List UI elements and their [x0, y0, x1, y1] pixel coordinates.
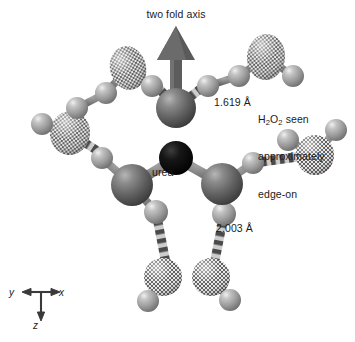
peroxide-oxygen: [192, 258, 230, 296]
axis-triad: [22, 288, 60, 321]
h2o2-note-line-2: approximately: [258, 150, 325, 162]
peroxide-oxygen: [245, 32, 288, 82]
axis-label-x: x: [59, 287, 64, 298]
axis-label-z: z: [33, 320, 38, 331]
axis-label-y: y: [9, 287, 14, 298]
figure-canvas: two fold axis 1.619 Å 2.003 Å urea H2O2 …: [0, 0, 355, 342]
hydrogen-atom: [219, 289, 241, 311]
hydrogen-atom: [228, 65, 250, 87]
h2o2-note-line-1: H2O2 seen: [258, 113, 325, 126]
hydrogen-atom: [137, 290, 159, 312]
hydrogen-atom: [66, 97, 88, 119]
h2o2-orientation-note: H2O2 seen approximately edge-on: [258, 88, 325, 225]
axis-arrow-y: [22, 288, 31, 295]
distance-label-n-h: 2.003 Å: [216, 222, 253, 234]
hydrogen-atom: [282, 65, 304, 87]
urea-nitrogen-atom-right: [201, 163, 243, 205]
urea-oxygen-atom: [156, 88, 196, 128]
hydrogen-atom: [144, 200, 168, 224]
hydrogen-atom: [141, 75, 163, 97]
distance-label-o-h: 1.619 Å: [214, 96, 251, 108]
hydrogen-atom: [31, 113, 53, 135]
urea-label: urea: [152, 166, 173, 178]
hydrogen-atom: [197, 75, 219, 97]
hydrogen-atom: [95, 82, 117, 104]
h2o2-note-line-3: edge-on: [258, 188, 325, 200]
urea-nitrogen-atom-left: [111, 164, 153, 206]
axis-arrow-z: [37, 312, 44, 321]
hydrogen-atom: [91, 147, 113, 169]
two-fold-axis-label: two fold axis: [146, 8, 205, 20]
hydrogen-atom: [325, 119, 347, 141]
